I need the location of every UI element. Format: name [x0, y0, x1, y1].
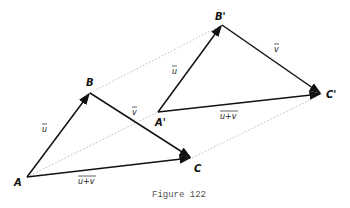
label-C-prime: C'	[326, 89, 336, 100]
vector-v	[90, 93, 190, 157]
figure: A B C A' B' C' u v u+v u v u+v Figure 12…	[0, 0, 350, 208]
label-u-prime: u	[172, 67, 177, 76]
figure-caption: Figure 122	[152, 190, 206, 200]
label-v: v	[132, 108, 137, 117]
label-A: A	[13, 177, 22, 188]
label-sum-prime: u+v	[220, 112, 237, 121]
label-sum: u+v	[78, 177, 95, 186]
label-B: B	[86, 77, 94, 88]
label-v-prime: v	[274, 45, 279, 54]
vector-u	[27, 94, 89, 177]
label-C: C	[194, 163, 202, 174]
label-B-prime: B'	[215, 11, 226, 22]
vector-sum-prime	[158, 94, 320, 112]
vector-v-prime	[222, 25, 320, 93]
vector-u-prime	[158, 26, 221, 112]
vector-sum	[27, 158, 190, 177]
label-A-prime: A'	[154, 117, 166, 128]
label-u: u	[42, 125, 47, 134]
vector-diagram: A B C A' B' C' u v u+v u v u+v Figure 12…	[0, 0, 350, 208]
